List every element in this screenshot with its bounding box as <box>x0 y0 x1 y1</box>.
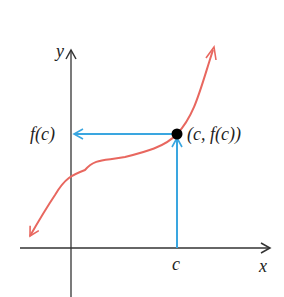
point-label: (c, f(c)) <box>187 124 241 145</box>
y-axis-label: y <box>54 41 64 61</box>
x-axis-label: x <box>258 256 267 276</box>
function-diagram: y x c f(c) (c, f(c)) <box>0 0 284 297</box>
point-c-fc <box>172 129 183 140</box>
function-curve <box>30 50 213 236</box>
fc-label: f(c) <box>30 124 55 145</box>
c-label: c <box>172 254 180 274</box>
